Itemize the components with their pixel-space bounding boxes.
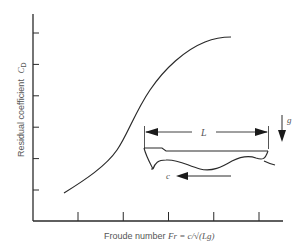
wave-surface-tail (264, 161, 275, 165)
speed-label: c (166, 171, 170, 181)
arrowhead-left-icon (145, 128, 158, 136)
ship-diagram: L c g (144, 115, 292, 181)
length-label: L (200, 127, 207, 138)
gravity-label: g (287, 115, 292, 125)
velocity-arrowhead-icon (176, 172, 188, 180)
y-axis-ticks (33, 33, 39, 190)
arrowhead-right-icon (255, 128, 268, 136)
gravity-arrowhead-icon (278, 130, 286, 142)
y-axis-label: Residual coefficient CD (16, 63, 27, 157)
axes (33, 14, 283, 221)
x-axis-label: Froude number Fr = c/√(Lg) (104, 231, 215, 241)
residual-coefficient-chart: Residual coefficient CD Froude number Fr… (0, 0, 305, 246)
x-axis-ticks (78, 212, 259, 221)
ship-deck (144, 148, 268, 151)
